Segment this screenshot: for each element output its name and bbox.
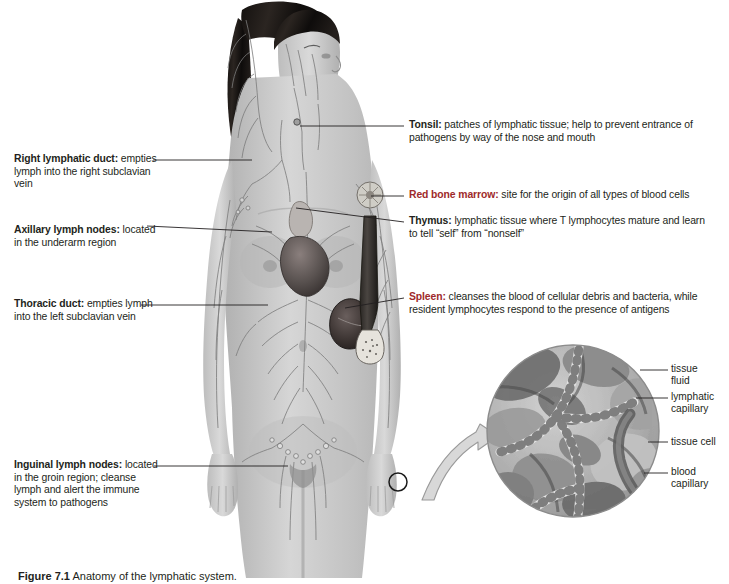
inset-label-line1: tissue xyxy=(671,363,698,375)
inset-label-line1: lymphatic xyxy=(671,391,714,403)
callout-spleen: Spleen: cleanses the blood of cellular d… xyxy=(409,291,721,316)
callout-axillary-lymph-nodes: Axillary lymph nodes: located in the und… xyxy=(14,224,164,249)
callout-term: Axillary lymph nodes: xyxy=(14,224,120,235)
inset-label-line2: fluid xyxy=(671,375,698,387)
figure-root: Right lymphatic duct: empties lymph into… xyxy=(0,0,729,584)
inset-label-lymphatic-capillary: lymphatic capillary xyxy=(671,391,714,416)
callout-term: Inguinal lymph nodes: xyxy=(14,459,122,470)
callout-description: lymphatic tissue where T lymphocytes mat… xyxy=(409,215,705,239)
inset-label-blood-capillary: blood capillary xyxy=(671,466,708,491)
callout-term: Thoracic duct: xyxy=(14,298,84,309)
inset-label-line2: capillary xyxy=(671,478,708,490)
figure-caption-text: Anatomy of the lymphatic system. xyxy=(72,570,236,582)
callout-term: Spleen: xyxy=(409,291,446,302)
callout-red-bone-marrow: Red bone marrow: site for the origin of … xyxy=(409,189,725,202)
figure-caption-number: Figure 7.1 xyxy=(18,570,70,582)
thymus-organ xyxy=(289,202,312,238)
callout-right-lymphatic-duct: Right lymphatic duct: empties lymph into… xyxy=(14,153,162,191)
callout-thymus: Thymus: lymphatic tissue where T lymphoc… xyxy=(409,215,709,240)
inset-label-line1: blood xyxy=(671,466,708,478)
callout-term: Red bone marrow: xyxy=(409,189,499,200)
tonsil-marker xyxy=(294,119,300,125)
inset-label-line2: capillary xyxy=(671,403,714,415)
callout-term: Thymus: xyxy=(409,215,452,226)
callout-inguinal-lymph-nodes: Inguinal lymph nodes: located in the gro… xyxy=(14,459,158,509)
callout-description: site for the origin of all types of bloo… xyxy=(501,189,689,200)
figure-caption: Figure 7.1 Anatomy of the lymphatic syst… xyxy=(18,570,718,583)
callout-description: cleanses the blood of cellular debris an… xyxy=(409,291,697,315)
callout-term: Tonsil: xyxy=(409,119,442,130)
inset-label-tissue-fluid: tissue fluid xyxy=(671,363,698,388)
lymphatic-capillary-inset xyxy=(484,342,662,520)
inset-label-tissue-cell: tissue cell xyxy=(671,436,716,448)
lymphatic-system-body-illustration xyxy=(186,0,418,578)
inset-label-line1: tissue cell xyxy=(671,436,716,448)
callout-term: Right lymphatic duct: xyxy=(14,153,118,164)
callout-description: patches of lymphatic tissue; help to pre… xyxy=(409,119,693,143)
callout-tonsil: Tonsil: patches of lymphatic tissue; hel… xyxy=(409,119,721,144)
callout-thoracic-duct: Thoracic duct: empties lymph into the le… xyxy=(14,298,156,323)
